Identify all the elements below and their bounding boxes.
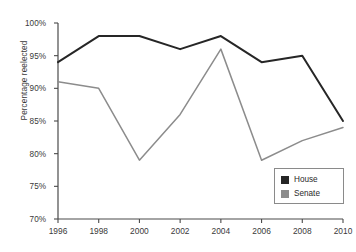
reelection-rate-line-chart: Percentage reelected 100%95%90%85%80%75%… [0, 0, 356, 252]
series-line-house [58, 36, 343, 121]
plot-area [0, 0, 356, 252]
series-line-senate [58, 49, 343, 160]
legend-label-senate: Senate [294, 190, 320, 198]
legend-item-senate: Senate [281, 187, 343, 201]
legend-item-house: House [281, 173, 343, 187]
legend-swatch-senate [281, 190, 289, 198]
legend-swatch-house [281, 176, 289, 184]
legend-label-house: House [294, 176, 318, 184]
chart-legend: House Senate [274, 168, 344, 204]
